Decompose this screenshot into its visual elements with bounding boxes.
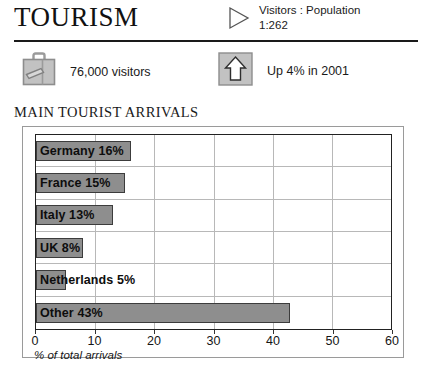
visitor-ratio-block: Visitors : Population 1:262 bbox=[228, 3, 360, 34]
bar-label: Netherlands 5% bbox=[40, 273, 135, 287]
x-axis-title: % of total arrivals bbox=[34, 349, 122, 361]
x-tick-label: 30 bbox=[207, 334, 221, 348]
suitcase-icon bbox=[20, 50, 58, 94]
x-tick-label: 40 bbox=[266, 334, 280, 348]
bar-row: Netherlands 5% bbox=[36, 264, 391, 296]
stat-growth: Up 4% in 2001 bbox=[217, 50, 349, 92]
bar-rows: Germany 16%France 15%Italy 13%UK 8%Nethe… bbox=[36, 135, 391, 329]
bar-row: Germany 16% bbox=[36, 135, 391, 167]
bar-label: UK 8% bbox=[40, 241, 80, 255]
bar-row: Other 43% bbox=[36, 297, 391, 329]
chart-heading: MAIN TOURIST ARRIVALS bbox=[14, 104, 199, 121]
ratio-value: 1:262 bbox=[259, 18, 360, 33]
header-divider bbox=[14, 40, 418, 42]
bar-label: France 15% bbox=[40, 176, 110, 190]
x-axis: 0102030405060 bbox=[35, 330, 392, 348]
page-title: TOURISM bbox=[14, 2, 139, 33]
visitor-ratio-text: Visitors : Population 1:262 bbox=[259, 3, 360, 33]
bar-label: Germany 16% bbox=[40, 144, 124, 158]
stats-row: 76,000 visitors Up 4% in 2001 bbox=[0, 50, 432, 98]
x-tick-label: 50 bbox=[326, 334, 340, 348]
bar-row: UK 8% bbox=[36, 232, 391, 264]
chart-plot-area: Germany 16%France 15%Italy 13%UK 8%Nethe… bbox=[35, 134, 392, 330]
triangle-right-icon bbox=[228, 6, 250, 34]
x-tick-label: 60 bbox=[385, 334, 399, 348]
up-arrow-icon bbox=[217, 50, 255, 92]
x-tick-label: 10 bbox=[88, 334, 102, 348]
x-tick-label: 20 bbox=[147, 334, 161, 348]
page-header: TOURISM Visitors : Population 1:262 bbox=[0, 0, 432, 46]
ratio-label: Visitors : Population bbox=[259, 4, 360, 16]
stat-visitors-label: 76,000 visitors bbox=[70, 65, 151, 79]
stat-growth-label: Up 4% in 2001 bbox=[267, 64, 349, 78]
bar-row: France 15% bbox=[36, 167, 391, 199]
x-tick-label: 0 bbox=[32, 334, 39, 348]
bar-label: Italy 13% bbox=[40, 208, 94, 222]
stat-visitors: 76,000 visitors bbox=[20, 50, 151, 94]
bar-row: Italy 13% bbox=[36, 200, 391, 232]
bar-label: Other 43% bbox=[40, 306, 103, 320]
